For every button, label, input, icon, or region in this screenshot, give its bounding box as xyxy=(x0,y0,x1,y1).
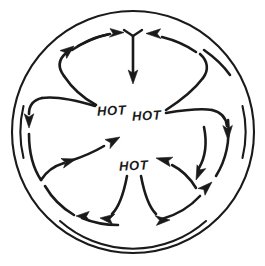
flow-left-descend xyxy=(29,134,41,180)
flow-left-turn-down xyxy=(29,98,42,114)
inner-boundary-arc-left xyxy=(20,106,23,158)
flow-bottom-right-outer xyxy=(162,196,200,219)
arrowhead-lower-left-diagonal xyxy=(105,137,120,149)
flow-upper-right-turn xyxy=(200,54,207,78)
flow-upper-left-turn xyxy=(60,53,66,76)
flow-top-left-outer-b xyxy=(78,34,110,46)
flow-upper-right-feed xyxy=(166,109,212,113)
flow-lower-left-diagonal xyxy=(70,146,104,161)
convection-svg xyxy=(0,0,265,266)
flow-lower-right-diagonal xyxy=(172,165,196,188)
hot-label-upper-right: HOT xyxy=(132,108,162,123)
flow-right-turn-down xyxy=(212,110,227,126)
arrowhead-top-left-inflow xyxy=(109,29,124,38)
inner-boundary-arc-bottom xyxy=(60,221,206,249)
hot-label-upper-left: HOT xyxy=(97,103,127,118)
hot-label-lower-center: HOT xyxy=(119,158,149,173)
flow-bottom-plume-left-leg xyxy=(112,176,127,214)
inner-boundary-arc-right xyxy=(243,106,246,158)
arrowhead-bottom-left-outflow xyxy=(76,211,90,221)
arrowhead-top-right-inflow xyxy=(146,29,161,39)
convection-diagram: HOT HOT HOT xyxy=(0,0,265,266)
flow-upper-right-rise xyxy=(166,78,203,110)
flow-lower-left-turn-up xyxy=(41,163,64,180)
flow-right-descend-inner xyxy=(199,127,206,168)
flow-bottom-left-outer xyxy=(45,186,74,215)
arrowhead-left-downwelling xyxy=(24,114,34,128)
downwelling-fork-right-top xyxy=(133,30,142,36)
flow-top-right-inner-arc xyxy=(162,37,196,52)
downwelling-fork-left-top xyxy=(124,30,133,36)
flow-bottom-plume-right-leg xyxy=(141,176,156,214)
arrowhead-lower-right-diagonal xyxy=(156,157,173,166)
arrowhead-bottom-right-rise xyxy=(198,182,212,195)
